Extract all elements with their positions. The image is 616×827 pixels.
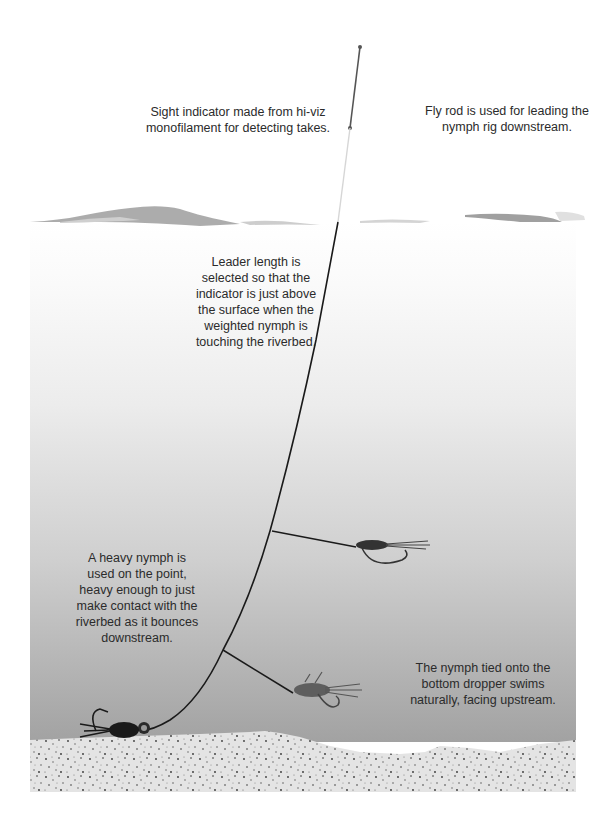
annotation-dropper-nymph: The nymph tied onto the bottom dropper s… (398, 660, 568, 708)
fly-rod-tip (350, 47, 360, 128)
annotation-sight-indicator: Sight indicator made from hi-viz monofil… (138, 104, 338, 136)
annotation-leader-length: Leader length is selected so that the in… (186, 254, 326, 350)
sight-indicator (338, 128, 350, 222)
annotation-heavy-nymph: A heavy nymph is used on the point, heav… (62, 550, 212, 646)
rod-tip-dot (358, 45, 362, 49)
annotation-fly-rod: Fly rod is used for leading the nymph ri… (412, 103, 602, 135)
